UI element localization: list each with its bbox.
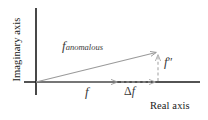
imaginary-axis-label: Imaginary axis [11, 14, 22, 86]
label-f-real: f [85, 84, 89, 100]
label-f-anomalous-subscript: anomalous [66, 42, 103, 52]
label-f-anomalous: fanomalous [62, 38, 103, 54]
vector-f-anomalous [36, 53, 156, 83]
label-delta-f: Δf [124, 84, 135, 99]
anomalous-scattering-diagram: Imaginary axis Real axis fanomalous f Δf… [0, 0, 208, 120]
double-prime-symbol: ″ [168, 55, 173, 69]
real-axis-label: Real axis [150, 100, 190, 111]
label-delta-f-symbol: f [132, 84, 135, 98]
label-f-double-prime: f″ [164, 54, 173, 70]
delta-symbol: Δ [124, 84, 132, 98]
